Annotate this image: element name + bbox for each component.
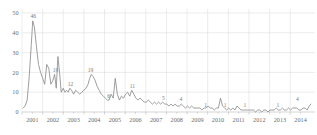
- svg-text:2013: 2013: [274, 116, 286, 123]
- svg-text:1: 1: [243, 102, 246, 108]
- svg-text:2003: 2003: [67, 116, 79, 123]
- line-chart: 01020304050 2001200220032004200520062007…: [0, 0, 317, 135]
- data-point-labels: 461912196115411114: [31, 13, 300, 108]
- svg-text:2012: 2012: [253, 116, 265, 123]
- svg-text:2005: 2005: [109, 116, 121, 123]
- svg-text:1: 1: [276, 102, 279, 108]
- y-axis-tick-labels: 01020304050: [12, 9, 18, 115]
- svg-text:2004: 2004: [88, 116, 100, 123]
- svg-text:2007: 2007: [150, 116, 162, 123]
- svg-text:19: 19: [88, 67, 94, 73]
- svg-text:1: 1: [204, 102, 207, 108]
- svg-text:2010: 2010: [212, 116, 224, 123]
- svg-text:2009: 2009: [191, 116, 203, 123]
- svg-text:4: 4: [179, 96, 182, 102]
- svg-text:12: 12: [68, 81, 74, 87]
- svg-text:1: 1: [224, 102, 227, 108]
- svg-text:46: 46: [31, 13, 37, 19]
- svg-text:2014: 2014: [294, 116, 306, 123]
- svg-text:2001: 2001: [26, 116, 38, 123]
- svg-text:2008: 2008: [171, 116, 183, 123]
- svg-text:11: 11: [130, 83, 136, 89]
- chart-canvas: 01020304050 2001200220032004200520062007…: [0, 0, 317, 135]
- y-gridlines: [22, 9, 315, 112]
- svg-text:6: 6: [107, 93, 110, 99]
- svg-text:40: 40: [12, 29, 18, 36]
- svg-text:20: 20: [12, 69, 18, 76]
- x-axis-tick-labels: 2001200220032004200520062007200820092010…: [26, 116, 307, 123]
- svg-text:10: 10: [12, 88, 18, 95]
- svg-text:0: 0: [15, 108, 18, 115]
- svg-text:2006: 2006: [129, 116, 141, 123]
- svg-text:2011: 2011: [233, 116, 245, 123]
- svg-text:30: 30: [12, 49, 18, 56]
- svg-text:4: 4: [296, 96, 299, 102]
- svg-text:5: 5: [162, 95, 165, 101]
- svg-text:19: 19: [53, 67, 59, 73]
- svg-text:2002: 2002: [47, 116, 59, 123]
- data-series-line: [23, 21, 311, 112]
- svg-text:50: 50: [12, 9, 18, 16]
- x-tickmarks: [22, 112, 301, 115]
